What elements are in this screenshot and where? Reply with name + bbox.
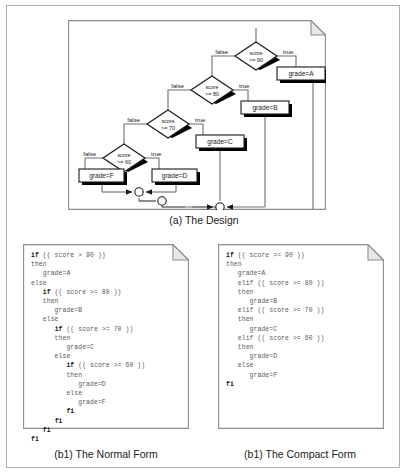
action-label: grade=B bbox=[252, 104, 278, 112]
action-label: grade=A bbox=[288, 70, 314, 78]
action-grade-d: grade=D bbox=[152, 169, 200, 185]
decision-label-line1: score bbox=[205, 84, 218, 90]
merge-node bbox=[158, 197, 166, 205]
decision-label-line2: >= 90 bbox=[249, 57, 263, 63]
edge-label-false: false bbox=[83, 151, 96, 157]
edge-label-true: true bbox=[195, 117, 206, 123]
action-grade-f: grade=F bbox=[79, 169, 127, 185]
decision-label-line2: >= 80 bbox=[205, 91, 219, 97]
action-label: grade=C bbox=[207, 138, 233, 146]
caption-normal-form: (b1) The Normal Form bbox=[11, 448, 201, 460]
action-grade-b: grade=B bbox=[241, 101, 292, 117]
edge-label-true: true bbox=[283, 49, 294, 55]
action-grade-c: grade=C bbox=[196, 135, 247, 151]
decision-label-line1: score bbox=[117, 152, 130, 158]
figure-frame: score >= 90 false true score >= 80 false… bbox=[6, 5, 400, 468]
flowchart-diagram: score >= 90 false true score >= 80 false… bbox=[68, 20, 326, 210]
edge-label-false: false bbox=[215, 49, 228, 55]
edge-label-true: true bbox=[151, 151, 162, 157]
action-label: grade=D bbox=[162, 172, 188, 180]
decision-label-line2: >= 60 bbox=[117, 159, 131, 165]
compact-form-page: if (( score >= 90 )) then grade=A elif (… bbox=[218, 244, 384, 429]
action-label: grade=F bbox=[89, 172, 114, 180]
merge-node bbox=[135, 188, 143, 196]
normal-form-page: if (( score > 90 )) then grade=A else if… bbox=[23, 244, 189, 429]
edge-label-true: true bbox=[239, 83, 250, 89]
design-diagram-page: score >= 90 false true score >= 80 false… bbox=[68, 20, 326, 210]
decision-label-line2: >= 70 bbox=[161, 125, 175, 131]
caption-design: (a) The Design bbox=[7, 214, 401, 226]
normal-form-code: if (( score > 90 )) then grade=A else if… bbox=[31, 251, 185, 444]
decision-label-line1: score bbox=[249, 50, 262, 56]
merge-node bbox=[216, 203, 224, 210]
edge-label-false: false bbox=[127, 117, 140, 123]
decision-label-line1: score bbox=[161, 118, 174, 124]
edge-label-false: false bbox=[171, 83, 184, 89]
page-fold-corner bbox=[311, 21, 325, 35]
action-grade-a: grade=A bbox=[277, 67, 326, 83]
caption-compact-form: (b1) The Compact Form bbox=[205, 448, 395, 460]
compact-form-code: if (( score >= 90 )) then grade=A elif (… bbox=[226, 251, 380, 389]
